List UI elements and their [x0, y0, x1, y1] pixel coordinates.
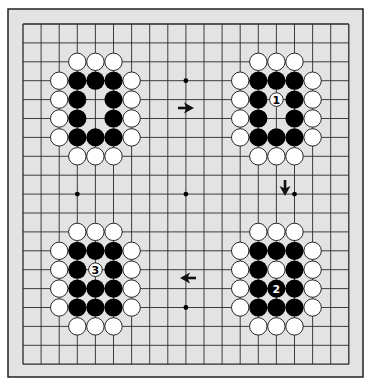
black-stone[interactable] [249, 298, 267, 316]
black-stone[interactable] [68, 261, 86, 279]
black-stone[interactable] [68, 91, 86, 109]
black-stone[interactable] [104, 242, 122, 260]
white-stone[interactable] [105, 318, 122, 335]
white-stone[interactable] [51, 261, 68, 278]
white-stone[interactable] [232, 242, 249, 259]
black-stone[interactable] [267, 72, 285, 90]
black-stone[interactable] [267, 298, 285, 316]
white-stone[interactable] [105, 53, 122, 70]
black-stone[interactable] [86, 298, 104, 316]
white-stone[interactable] [87, 223, 104, 240]
black-stone[interactable] [285, 261, 303, 279]
black-stone[interactable] [104, 261, 122, 279]
white-stone[interactable] [268, 318, 285, 335]
white-stone[interactable] [250, 318, 267, 335]
white-stone[interactable] [304, 72, 321, 89]
white-stone[interactable] [69, 148, 86, 165]
black-stone[interactable] [68, 72, 86, 90]
black-stone[interactable] [285, 128, 303, 146]
black-stone[interactable] [68, 242, 86, 260]
white-stone[interactable] [105, 148, 122, 165]
white-stone[interactable] [51, 129, 68, 146]
white-stone[interactable] [286, 148, 303, 165]
white-stone[interactable] [286, 223, 303, 240]
white-stone[interactable] [51, 110, 68, 127]
white-stone[interactable] [123, 299, 140, 316]
white-stone[interactable] [123, 242, 140, 259]
white-stone[interactable] [105, 223, 122, 240]
black-stone[interactable] [267, 242, 285, 260]
black-stone[interactable] [249, 128, 267, 146]
white-stone[interactable] [304, 261, 321, 278]
black-stone[interactable] [249, 91, 267, 109]
white-stone[interactable] [123, 261, 140, 278]
white-stone[interactable] [304, 299, 321, 316]
black-stone[interactable] [68, 298, 86, 316]
black-stone[interactable] [86, 242, 104, 260]
move-1-stone[interactable]: 1 [270, 93, 284, 107]
white-stone[interactable] [268, 223, 285, 240]
black-stone[interactable] [267, 128, 285, 146]
white-stone[interactable] [123, 91, 140, 108]
white-stone[interactable] [304, 280, 321, 297]
white-stone[interactable] [232, 110, 249, 127]
white-stone[interactable] [69, 53, 86, 70]
white-stone[interactable] [250, 53, 267, 70]
black-stone[interactable] [104, 298, 122, 316]
white-stone[interactable] [51, 91, 68, 108]
white-stone[interactable] [51, 72, 68, 89]
white-stone[interactable] [232, 72, 249, 89]
black-stone[interactable] [104, 280, 122, 298]
white-stone[interactable] [250, 223, 267, 240]
white-stone[interactable] [232, 261, 249, 278]
white-stone[interactable] [87, 318, 104, 335]
white-stone[interactable] [51, 242, 68, 259]
white-stone[interactable] [51, 299, 68, 316]
white-stone[interactable] [268, 148, 285, 165]
white-stone[interactable] [87, 53, 104, 70]
white-stone[interactable] [232, 299, 249, 316]
black-stone[interactable] [86, 128, 104, 146]
white-stone[interactable] [123, 280, 140, 297]
black-stone[interactable] [249, 242, 267, 260]
black-stone[interactable] [86, 280, 104, 298]
black-stone[interactable] [104, 72, 122, 90]
white-stone[interactable] [69, 318, 86, 335]
white-stone[interactable] [123, 129, 140, 146]
white-stone[interactable] [304, 91, 321, 108]
white-stone[interactable] [250, 148, 267, 165]
black-stone[interactable] [249, 280, 267, 298]
black-stone[interactable] [285, 91, 303, 109]
black-stone[interactable] [68, 280, 86, 298]
move-2-stone[interactable]: 2 [267, 280, 285, 298]
black-stone[interactable] [104, 128, 122, 146]
black-stone[interactable] [249, 109, 267, 127]
white-stone[interactable] [232, 91, 249, 108]
black-stone[interactable] [285, 298, 303, 316]
white-stone[interactable] [69, 223, 86, 240]
white-stone[interactable] [268, 261, 285, 278]
white-stone[interactable] [232, 280, 249, 297]
black-stone[interactable] [68, 128, 86, 146]
black-stone[interactable] [249, 72, 267, 90]
white-stone[interactable] [51, 280, 68, 297]
white-stone[interactable] [123, 72, 140, 89]
white-stone[interactable] [304, 129, 321, 146]
move-3-stone[interactable]: 3 [89, 263, 103, 277]
black-stone[interactable] [68, 109, 86, 127]
white-stone[interactable] [268, 53, 285, 70]
black-stone[interactable] [86, 72, 104, 90]
white-stone[interactable] [286, 318, 303, 335]
black-stone[interactable] [285, 109, 303, 127]
black-stone[interactable] [285, 242, 303, 260]
black-stone[interactable] [285, 72, 303, 90]
black-stone[interactable] [249, 261, 267, 279]
black-stone[interactable] [104, 91, 122, 109]
white-stone[interactable] [232, 129, 249, 146]
white-stone[interactable] [123, 110, 140, 127]
white-stone[interactable] [87, 148, 104, 165]
black-stone[interactable] [104, 109, 122, 127]
white-stone[interactable] [304, 242, 321, 259]
white-stone[interactable] [286, 53, 303, 70]
white-stone[interactable] [304, 110, 321, 127]
